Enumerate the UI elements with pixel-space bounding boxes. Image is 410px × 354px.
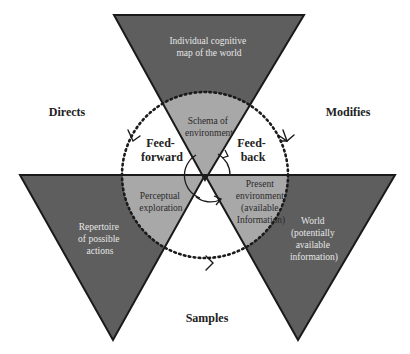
feedforward-label: Feed- forward — [141, 136, 183, 164]
samples-label: Samples — [186, 311, 229, 325]
perceptual-cycle-diagram: Individual cognitive map of the world Re… — [0, 0, 410, 354]
directs-label: Directs — [49, 105, 86, 119]
feedback-label: Feed- back — [237, 136, 269, 164]
modifies-label: Modifies — [326, 105, 371, 119]
